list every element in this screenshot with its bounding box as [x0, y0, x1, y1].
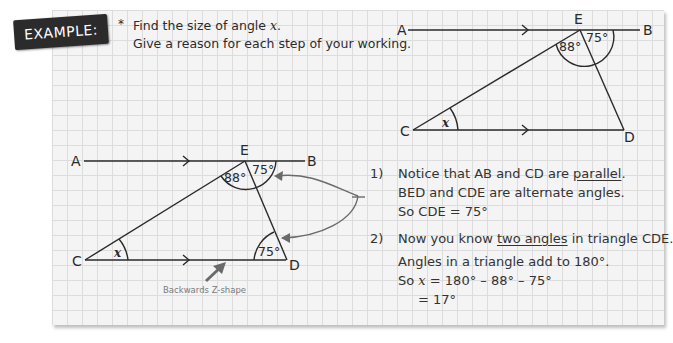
- step-number: 2): [370, 229, 383, 248]
- step-line: Notice that AB and CD are parallel.: [398, 164, 673, 183]
- solution-steps: 1) Notice that AB and CD are parallel. B…: [370, 164, 673, 309]
- label-b: B: [307, 153, 317, 169]
- arrow-to-cde: [282, 196, 358, 238]
- step-line: So x = 180° – 88° – 75°: [398, 271, 673, 290]
- angle-x-label: x: [113, 246, 122, 260]
- underlined-term: two angles: [497, 231, 568, 246]
- step-line: Angles in a triangle add to 180°.: [398, 252, 673, 271]
- step-line: = 17°: [398, 290, 673, 309]
- angle-88-label: 88°: [224, 170, 246, 185]
- variable-x: x: [418, 273, 425, 288]
- line-ce: [85, 161, 245, 260]
- arrowhead-cde: [281, 233, 290, 243]
- step-line: Now you know two angles in triangle CDE.: [398, 229, 673, 248]
- label-e: E: [240, 142, 249, 158]
- arrowhead-bed: [274, 171, 283, 181]
- underlined-term: parallel: [573, 166, 621, 181]
- step-line: So CDE = 75°: [398, 202, 673, 221]
- step-number: 1): [370, 164, 383, 183]
- step-line: BED and CDE are alternate angles.: [398, 183, 673, 202]
- backwards-z-annotation: Backwards Z-shape: [163, 285, 246, 295]
- arrow-to-bed: [276, 175, 358, 196]
- step-2: 2) Now you know two angles in triangle C…: [370, 229, 673, 309]
- step-1: 1) Notice that AB and CD are parallel. B…: [370, 164, 673, 221]
- angle-75-top-label: 75°: [252, 162, 274, 177]
- label-a: A: [71, 153, 81, 169]
- label-d: D: [289, 257, 300, 273]
- angle-75-bottom-label: 75°: [258, 244, 280, 259]
- label-c: C: [72, 253, 82, 269]
